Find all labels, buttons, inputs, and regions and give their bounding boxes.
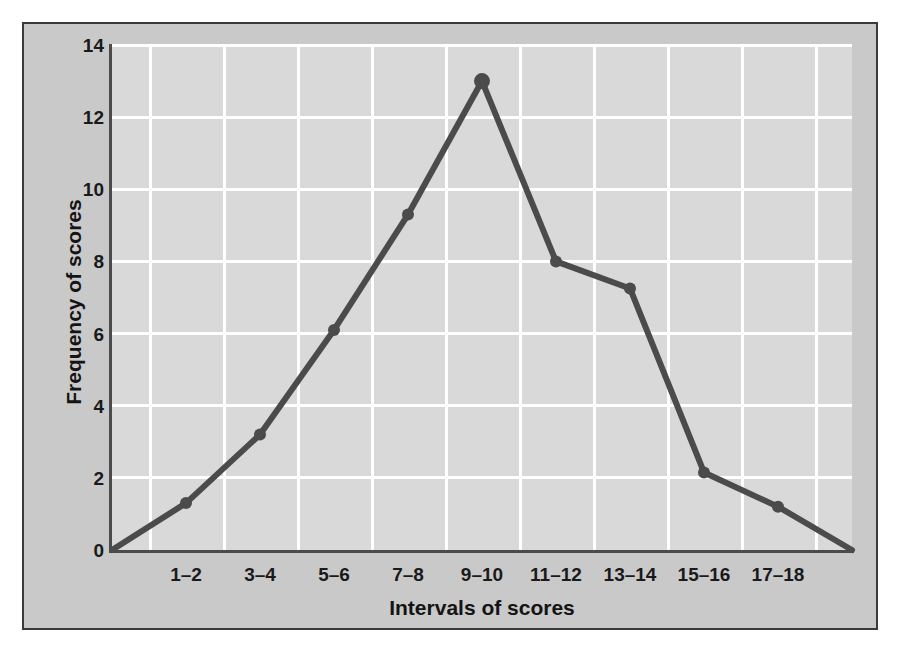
data-point-marker <box>698 466 710 478</box>
y-tick-label: 6 <box>58 325 104 344</box>
x-tick-label: 17–18 <box>752 564 805 586</box>
data-point-marker <box>550 255 562 267</box>
x-tick-label: 1–2 <box>170 564 202 586</box>
x-tick-label: 9–10 <box>461 564 503 586</box>
x-tick-label: 13–14 <box>604 564 657 586</box>
x-tick-label: 7–8 <box>392 564 424 586</box>
y-tick-label: 8 <box>58 252 104 271</box>
data-point-marker <box>474 73 490 89</box>
data-series-line <box>112 45 852 550</box>
x-tick-label: 5–6 <box>318 564 350 586</box>
y-tick-label: 12 <box>58 108 104 127</box>
plot-area <box>112 45 852 550</box>
y-tick-label: 2 <box>58 469 104 488</box>
y-tick-label: 10 <box>58 180 104 199</box>
y-tick-label: 14 <box>58 36 104 55</box>
x-tick-label: 15–16 <box>678 564 731 586</box>
data-point-marker <box>624 282 636 294</box>
data-point-marker <box>328 324 340 336</box>
y-tick-label: 4 <box>58 397 104 416</box>
data-point-marker <box>772 501 784 513</box>
x-tick-label: 3–4 <box>244 564 276 586</box>
data-point-marker <box>180 497 192 509</box>
x-axis-label: Intervals of scores <box>112 596 852 620</box>
chart-figure: Frequency of scores 02468101214 1–23–45–… <box>22 22 878 630</box>
data-point-marker <box>402 209 414 221</box>
series-polyline <box>112 81 852 550</box>
y-tick-label: 0 <box>58 541 104 560</box>
data-point-marker <box>254 429 266 441</box>
y-axis-ticks: 02468101214 <box>38 24 104 628</box>
x-tick-label: 11–12 <box>530 564 582 586</box>
